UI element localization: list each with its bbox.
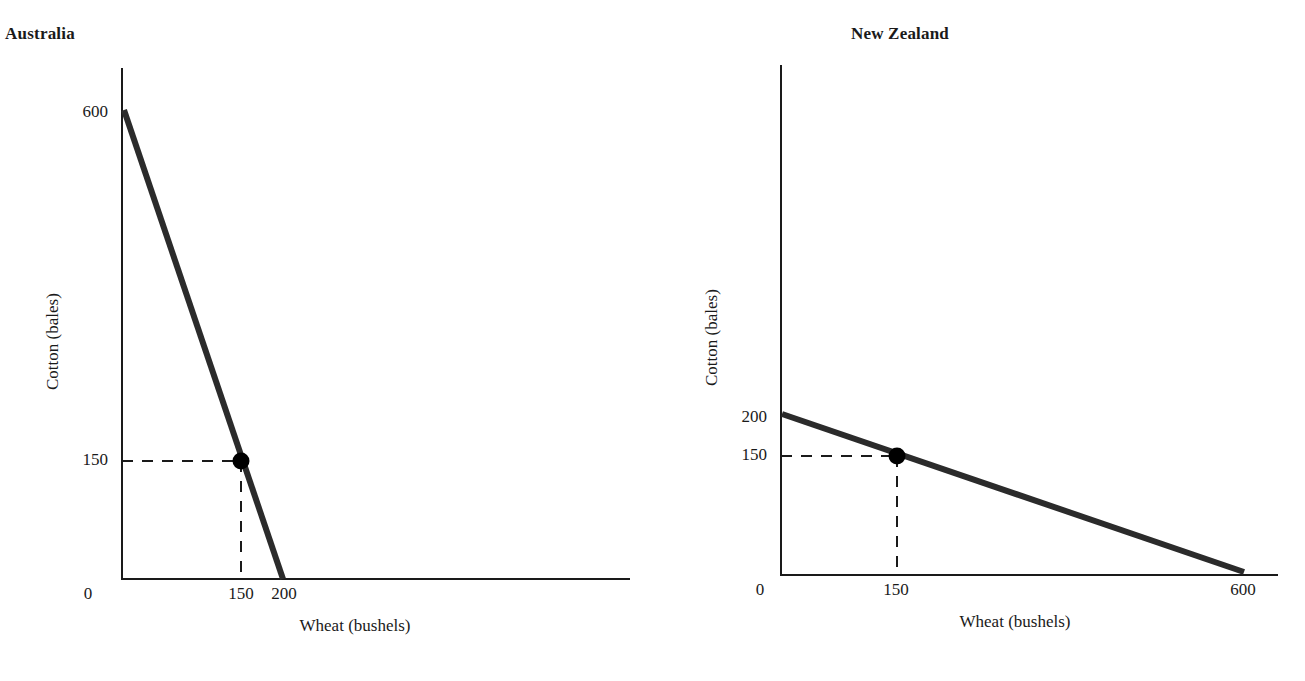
plot-area-newzealand — [645, 0, 1305, 681]
chart-panel-newzealand: New Zealand 200 150 0 150 600 Wheat (bus… — [645, 0, 1305, 681]
y-tick-label-600: 600 — [52, 102, 108, 122]
ppf-line-newzealand — [782, 414, 1244, 572]
production-point-marker — [889, 448, 906, 465]
y-tick-label-200: 200 — [711, 407, 767, 427]
x-tick-label-200: 200 — [256, 584, 312, 604]
y-tick-label-150: 150 — [52, 450, 108, 470]
chart-panel-australia: Australia 600 150 0 150 200 Wheat (bushe… — [0, 0, 660, 681]
x-tick-label-0: 0 — [740, 580, 780, 600]
production-point-marker — [233, 453, 250, 470]
ppf-figure: Australia 600 150 0 150 200 Wheat (bushe… — [0, 0, 1305, 681]
x-axis-title: Wheat (bushels) — [275, 616, 435, 636]
x-axis-title: Wheat (bushels) — [935, 612, 1095, 632]
y-axis-title: Cotton (bales) — [43, 293, 63, 390]
ppf-line-australia — [124, 110, 283, 579]
x-tick-label-600: 600 — [1215, 580, 1271, 600]
y-axis-title: Cotton (bales) — [702, 289, 722, 386]
x-tick-label-0: 0 — [68, 584, 108, 604]
x-tick-label-150: 150 — [868, 580, 924, 600]
y-tick-label-150: 150 — [711, 445, 767, 465]
